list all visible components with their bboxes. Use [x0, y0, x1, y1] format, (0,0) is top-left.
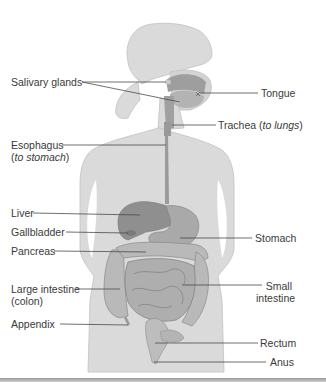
- label-salivary-glands: Salivary glands: [11, 76, 82, 88]
- bottom-divider: [0, 378, 326, 382]
- label-trachea-note: to lungs: [263, 119, 300, 131]
- label-esophagus: Esophagus (to stomach): [11, 139, 69, 163]
- label-trachea-note-close: ): [299, 119, 303, 131]
- label-gallbladder: Gallbladder: [11, 226, 65, 238]
- label-large-intestine: Large intestine (colon): [11, 283, 80, 307]
- label-pancreas: Pancreas: [11, 245, 55, 257]
- label-esophagus-note-close: ): [66, 151, 70, 163]
- label-tongue: Tongue: [261, 87, 295, 99]
- label-anus: Anus: [270, 356, 294, 368]
- label-trachea-text: Trachea: [218, 119, 256, 131]
- label-esophagus-note: to stomach: [15, 151, 66, 163]
- label-small-intestine: Small intestine: [256, 280, 292, 304]
- label-appendix: Appendix: [11, 318, 55, 330]
- label-large-intestine-text: Large intestine: [11, 283, 80, 295]
- label-large-intestine-line2: (colon): [11, 295, 43, 307]
- label-stomach: Stomach: [255, 232, 296, 244]
- label-small-intestine-line2: intestine: [256, 292, 295, 304]
- label-trachea: Trachea (to lungs): [218, 119, 303, 131]
- small-intestine-organ: [125, 259, 195, 322]
- label-liver: Liver: [11, 207, 34, 219]
- digestive-system-diagram: Salivary glands Esophagus (to stomach) L…: [0, 0, 326, 382]
- label-small-intestine-text: Small: [266, 280, 292, 292]
- label-esophagus-text: Esophagus: [11, 139, 64, 151]
- label-rectum: Rectum: [260, 337, 296, 349]
